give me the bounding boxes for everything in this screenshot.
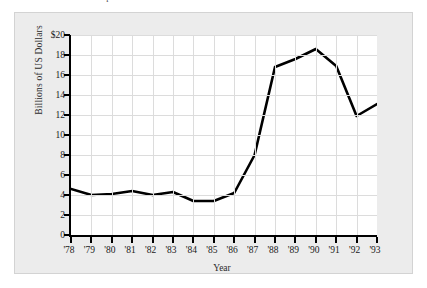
gridline-horizontal [71, 215, 377, 216]
x-tick-label: '82 [145, 245, 156, 255]
plot-inner [71, 35, 377, 235]
gridline-vertical [357, 35, 358, 235]
x-tick-mark [70, 237, 72, 243]
x-tick-label: '81 [125, 245, 136, 255]
gridline-vertical [173, 35, 174, 235]
x-tick-label: '92 [349, 245, 360, 255]
x-tick-label: '79 [84, 245, 95, 255]
gridline-horizontal [71, 155, 377, 156]
x-tick-label: '78 [63, 245, 74, 255]
gridline-horizontal [71, 135, 377, 136]
x-tick-mark [274, 237, 276, 243]
x-tick-mark [152, 237, 154, 243]
x-tick-label: '93 [369, 245, 380, 255]
y-tick-mark [64, 234, 70, 236]
x-axis-tick-labels: '78'79'80'81'82'83'84'85'86'87'88'89'90'… [69, 245, 375, 259]
x-tick-mark [111, 237, 113, 243]
gridline-horizontal [71, 55, 377, 56]
y-tick-mark [64, 214, 70, 216]
gridline-vertical [255, 35, 256, 235]
y-tick-mark [64, 114, 70, 116]
x-tick-mark [376, 237, 378, 243]
y-tick-mark [64, 94, 70, 96]
y-tick-mark [64, 34, 70, 36]
gridline-vertical [234, 35, 235, 235]
x-tick-label: '80 [104, 245, 115, 255]
y-tick-mark [64, 154, 70, 156]
x-axis-title: Year [69, 263, 375, 273]
y-tick-mark [64, 54, 70, 56]
gridline-vertical [91, 35, 92, 235]
gridline-horizontal [71, 115, 377, 116]
y-tick-mark [64, 134, 70, 136]
x-tick-mark [90, 237, 92, 243]
gridline-vertical [316, 35, 317, 235]
chart-plate: Billions of US Dollars $2018161412108642… [14, 12, 413, 274]
x-tick-label: '85 [206, 245, 217, 255]
x-tick-label: '84 [186, 245, 197, 255]
figure-caption-strip: FIGURE 3-4 Growth of Japanese direct inv… [0, 0, 427, 7]
gridline-horizontal [71, 175, 377, 176]
gridline-horizontal [71, 35, 377, 36]
x-tick-mark [192, 237, 194, 243]
x-tick-label: '89 [288, 245, 299, 255]
x-tick-label: '91 [329, 245, 340, 255]
gridline-vertical [295, 35, 296, 235]
gridline-vertical [193, 35, 194, 235]
gridline-horizontal [71, 95, 377, 96]
x-tick-mark [172, 237, 174, 243]
y-tick-mark [64, 74, 70, 76]
x-tick-mark [294, 237, 296, 243]
gridline-vertical [275, 35, 276, 235]
gridline-horizontal [71, 195, 377, 196]
y-tick-label: $20 [51, 30, 65, 40]
x-tick-label: '87 [247, 245, 258, 255]
y-tick-mark [64, 174, 70, 176]
x-tick-label: '83 [165, 245, 176, 255]
figure-container: FIGURE 3-4 Growth of Japanese direct inv… [0, 0, 427, 288]
y-axis-tick-labels: $20181614121086420 [33, 35, 65, 235]
x-tick-mark [131, 237, 133, 243]
gridline-horizontal [71, 75, 377, 76]
x-tick-mark [356, 237, 358, 243]
x-tick-label: '90 [308, 245, 319, 255]
plot-area [69, 35, 377, 237]
gridline-vertical [214, 35, 215, 235]
x-tick-mark [315, 237, 317, 243]
gridline-vertical [153, 35, 154, 235]
x-tick-label: '88 [267, 245, 278, 255]
gridline-vertical [112, 35, 113, 235]
x-tick-mark [233, 237, 235, 243]
gridline-vertical [132, 35, 133, 235]
y-tick-mark [64, 194, 70, 196]
x-tick-mark [213, 237, 215, 243]
gridline-vertical [336, 35, 337, 235]
x-tick-mark [335, 237, 337, 243]
x-tick-mark [254, 237, 256, 243]
x-tick-label: '86 [227, 245, 238, 255]
